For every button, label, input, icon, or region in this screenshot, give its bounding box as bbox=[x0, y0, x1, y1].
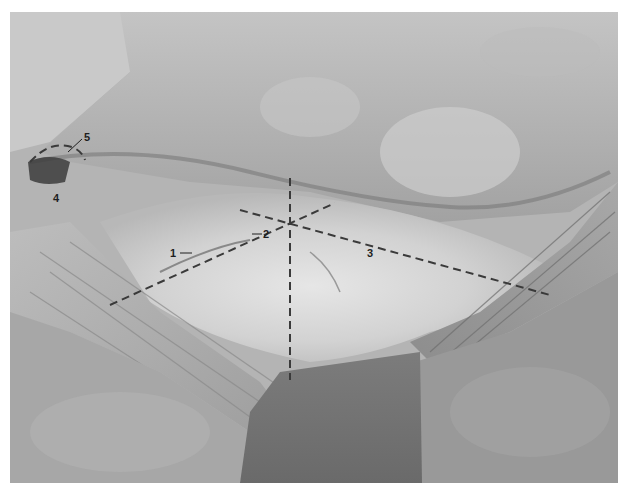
tissue-scene bbox=[10, 12, 618, 483]
surgical-photograph bbox=[10, 12, 618, 483]
